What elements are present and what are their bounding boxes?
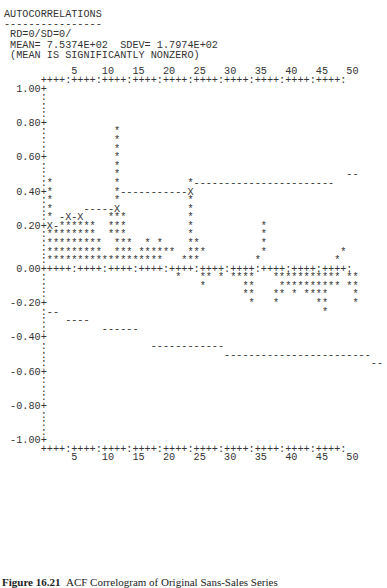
mean-significance-note: (MEAN IS SIGNIFICANTLY NONZERO) xyxy=(4,50,200,61)
figure-caption-text: ACF Correlogram of Original Sans-Sales S… xyxy=(66,576,278,588)
figure-label: Figure 16.21 xyxy=(2,576,60,588)
correlogram-output: AUTOCORRELATIONS ---------------- RD=0/S… xyxy=(4,10,383,463)
plot-row: : -- xyxy=(4,358,383,369)
axis-line: ++++:++++:++++:++++:++++:++++:++++:++++:… xyxy=(4,75,346,86)
ascii-correlogram-plot: 5 10 15 20 25 30 35 40 45 50 ++++:++++:+… xyxy=(4,67,383,463)
report-header: AUTOCORRELATIONS ---------------- RD=0/S… xyxy=(4,10,383,61)
axis-line: 5 10 15 20 25 30 35 40 45 50 xyxy=(4,452,359,463)
figure-caption: Figure 16.21 ACF Correlogram of Original… xyxy=(2,576,278,588)
